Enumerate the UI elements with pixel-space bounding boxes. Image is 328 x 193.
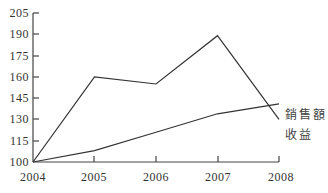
legend-sales-label: 銷售額 [285, 107, 327, 122]
profit-line [33, 104, 279, 162]
y-tick-label: 175 [10, 49, 30, 63]
x-tick-label: 2006 [143, 170, 169, 184]
y-tick-label: 100 [10, 155, 30, 169]
sales-line [33, 36, 279, 162]
x-ticks [94, 156, 279, 162]
y-tick-label: 130 [10, 112, 30, 126]
y-ticks [33, 13, 39, 141]
y-tick-labels: 100 115 130 145 160 175 190 205 [10, 6, 30, 169]
y-tick-label: 115 [10, 134, 29, 148]
y-tick-label: 205 [10, 6, 30, 20]
y-tick-label: 145 [10, 91, 30, 105]
y-tick-label: 160 [10, 70, 30, 84]
x-tick-label: 2008 [268, 170, 294, 184]
line-chart: 100 115 130 145 160 175 190 205 2004 200… [0, 0, 328, 193]
x-tick-label: 2007 [205, 170, 231, 184]
x-tick-label: 2004 [20, 170, 46, 184]
y-tick-label: 190 [10, 27, 30, 41]
legend-profit-label: 收益 [285, 128, 313, 142]
x-tick-labels: 2004 2005 2006 2007 2008 [20, 170, 294, 184]
x-tick-label: 2005 [81, 170, 107, 184]
